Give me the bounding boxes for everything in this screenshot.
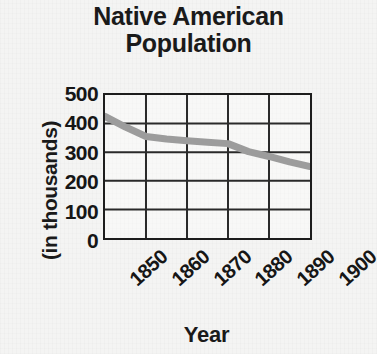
x-tick-label: 1850 [126,246,171,289]
x-tick-label: 1870 [210,246,255,289]
x-tick-label: 1900 [335,246,377,289]
x-tick-label: 1860 [168,246,213,289]
x-tick-label: 1880 [251,246,296,289]
x-tick-label: 1890 [293,246,338,289]
chart-page: Native American Population (in thousands… [0,0,377,354]
x-axis-label: Year [0,322,377,348]
x-axis-tick-labels: 185018601870188018901900 [0,0,377,354]
